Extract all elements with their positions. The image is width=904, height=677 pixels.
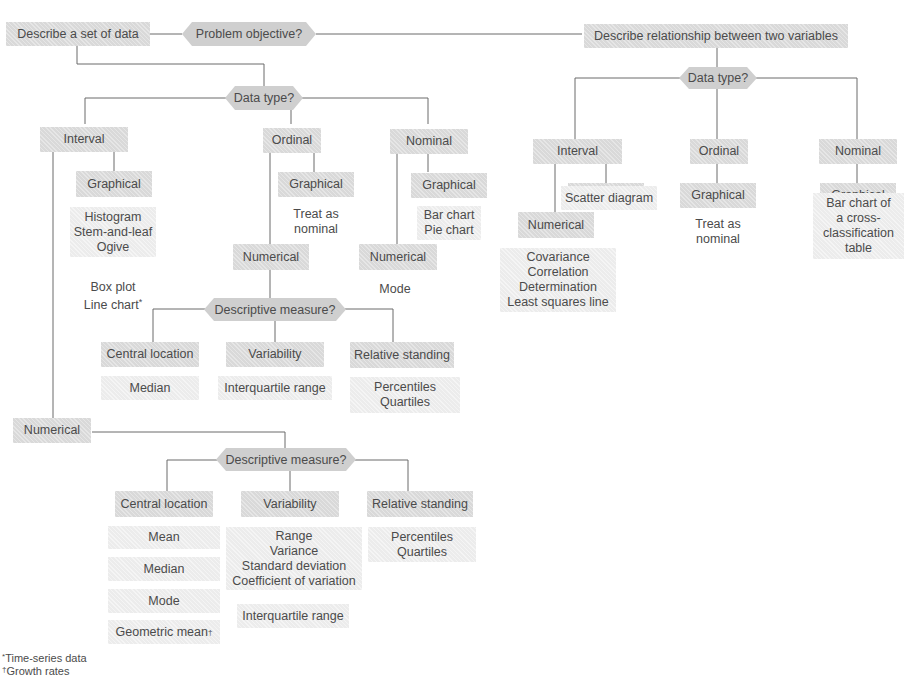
- interval-central-location-node[interactable]: Central location: [115, 491, 213, 517]
- left-interval-numerical-node[interactable]: Numerical: [13, 418, 91, 443]
- describe-set-of-data-node[interactable]: Describe a set of data: [6, 22, 150, 46]
- ordinal-variability-items: Interquartile range: [218, 376, 332, 400]
- ordinal-relative-standing-node[interactable]: Relative standing: [350, 342, 454, 368]
- left-interval-graphical-node[interactable]: Graphical: [76, 171, 152, 197]
- left-interval-graphical-extra: Box plot Line chart*: [64, 265, 162, 313]
- growth-rates-text: Growth rates: [6, 665, 69, 677]
- left-interval-node[interactable]: Interval: [40, 127, 128, 152]
- right-interval-node[interactable]: Interval: [533, 139, 622, 164]
- ordinal-central-location-node[interactable]: Central location: [101, 342, 199, 367]
- right-nominal-graphical-techniques: Bar chart of a cross- classification tab…: [813, 193, 904, 259]
- right-ordinal-node[interactable]: Ordinal: [690, 139, 748, 164]
- left-ordinal-numerical-node[interactable]: Numerical: [233, 244, 309, 270]
- interval-interquartile-range-node: Interquartile range: [237, 604, 349, 628]
- left-nominal-graphical-techniques: Bar chart Pie chart: [417, 206, 481, 240]
- interval-geometric-mean-node: Geometric mean†: [108, 620, 220, 644]
- left-interval-graphical-techniques: Histogram Stem-and-leaf Ogive: [70, 207, 156, 257]
- interval-variability-items: Range Variance Standard deviation Coeffi…: [226, 527, 362, 590]
- interval-descriptive-measure-decision[interactable]: Descriptive measure?: [216, 448, 356, 471]
- time-series-footnote-mark: *: [139, 297, 143, 307]
- describe-relationship-node[interactable]: Describe relationship between two variab…: [584, 24, 848, 48]
- left-data-type-decision[interactable]: Data type?: [225, 86, 303, 110]
- left-nominal-graphical-node[interactable]: Graphical: [411, 173, 487, 198]
- growth-rates-footnote-mark: †: [208, 625, 212, 640]
- interval-mean-node: Mean: [108, 526, 220, 549]
- problem-objective-decision[interactable]: Problem objective?: [182, 22, 316, 46]
- geometric-mean-text: Geometric mean: [116, 625, 208, 640]
- ordinal-descriptive-measure-decision[interactable]: Descriptive measure?: [204, 298, 346, 321]
- left-ordinal-treat-as-nominal: Treat as nominal: [280, 207, 352, 237]
- right-interval-numerical-node[interactable]: Numerical: [518, 212, 594, 238]
- interval-variability-node[interactable]: Variability: [241, 491, 339, 517]
- right-interval-numerical-techniques: Covariance Correlation Determination Lea…: [500, 248, 616, 312]
- left-ordinal-node[interactable]: Ordinal: [263, 128, 321, 153]
- right-ordinal-treat-as-nominal: Treat as nominal: [682, 217, 754, 247]
- interval-relative-standing-node[interactable]: Relative standing: [367, 491, 473, 517]
- interval-relative-standing-items: Percentiles Quartiles: [368, 527, 476, 562]
- ordinal-variability-node[interactable]: Variability: [226, 342, 324, 367]
- left-nominal-node[interactable]: Nominal: [390, 129, 468, 154]
- right-nominal-node[interactable]: Nominal: [819, 139, 897, 164]
- left-nominal-mode-text: Mode: [370, 282, 420, 297]
- interval-median-node: Median: [108, 557, 220, 581]
- right-data-type-decision[interactable]: Data type?: [679, 67, 757, 89]
- left-nominal-numerical-node[interactable]: Numerical: [359, 244, 437, 270]
- right-interval-graphical-techniques: Scatter diagram: [561, 186, 657, 210]
- left-ordinal-graphical-node[interactable]: Graphical: [278, 172, 354, 197]
- ordinal-relative-standing-items: Percentiles Quartiles: [350, 377, 460, 413]
- footnote-growth-rates: †Growth rates: [2, 663, 69, 677]
- right-ordinal-graphical-node[interactable]: Graphical: [680, 183, 756, 208]
- ordinal-central-location-items: Median: [101, 376, 199, 400]
- interval-mode-node: Mode: [108, 589, 220, 613]
- box-plot-line-chart-text: Box plot Line chart: [84, 280, 139, 312]
